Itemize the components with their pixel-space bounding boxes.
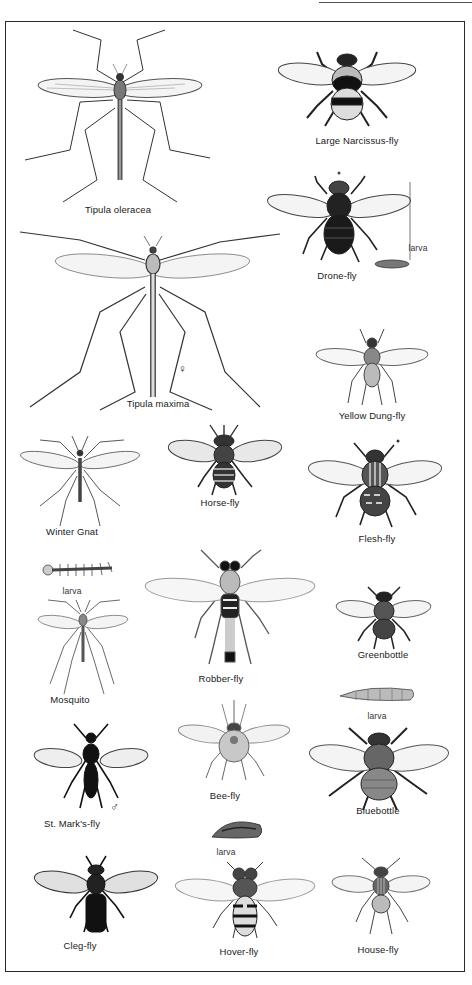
label-winter-gnat: Winter Gnat	[46, 526, 98, 537]
mosquito-larva-illustration	[40, 560, 115, 580]
tipula-maxima-illustration	[20, 232, 280, 412]
greenbottle-illustration	[336, 583, 431, 653]
annotation-hover-fly-larva: larva	[217, 847, 236, 857]
label-hover-fly: Hover-fly	[220, 946, 259, 957]
bee-fly-illustration	[178, 700, 290, 785]
top-rule	[319, 2, 472, 3]
label-house-fly: House-fly	[357, 944, 398, 955]
label-mosquito: Mosquito	[50, 694, 89, 705]
cleg-fly-illustration	[34, 856, 159, 936]
robber-fly-illustration	[145, 548, 315, 673]
st-marks-fly-illustration	[34, 722, 148, 812]
label-robber-fly: Robber-fly	[199, 673, 244, 684]
label-drone-fly: Drone-fly	[317, 270, 356, 281]
label-cleg-fly: Cleg-fly	[63, 940, 96, 951]
label-greenbottle: Greenbottle	[358, 649, 409, 660]
label-bluebottle: Bluebottle	[356, 805, 399, 816]
label-bee-fly: Bee-fly	[210, 790, 240, 801]
house-fly-illustration	[334, 856, 428, 938]
label-tipula-maxima: Tipula maxima	[127, 398, 190, 409]
winter-gnat-illustration	[20, 430, 140, 530]
label-yellow-dung-fly: Yellow Dung-fly	[339, 410, 406, 421]
horse-fly-illustration	[168, 425, 282, 500]
female-symbol-icon: ♀	[178, 362, 187, 376]
bluebottle-illustration	[309, 724, 449, 812]
hover-fly-illustration	[175, 862, 315, 942]
annotation-mosquito-larva: larva	[63, 586, 82, 596]
label-st-marks-fly: St. Mark's-fly	[44, 818, 100, 829]
bluebottle-larva-illustration	[338, 684, 416, 704]
hover-fly-larva-illustration	[208, 815, 264, 843]
mosquito-illustration	[38, 596, 128, 696]
tipula-oleracea-illustration	[25, 30, 215, 205]
annotation-drone-fly-larva: larva	[409, 243, 428, 253]
large-narcissus-fly-illustration	[277, 46, 417, 131]
label-large-narcissus-fly: Large Narcissus-fly	[315, 135, 398, 146]
label-tipula-oleracea: Tipula oleracea	[85, 204, 151, 215]
label-horse-fly: Horse-fly	[201, 497, 240, 508]
flesh-fly-illustration	[308, 437, 443, 532]
yellow-dung-fly-illustration	[316, 325, 428, 410]
drone-fly-illustration	[267, 170, 407, 270]
annotation-bluebottle-larva: larva	[368, 711, 387, 721]
male-symbol-icon: ♂	[110, 800, 119, 814]
drone-fly-larva-body	[374, 258, 414, 270]
label-flesh-fly: Flesh-fly	[359, 533, 396, 544]
